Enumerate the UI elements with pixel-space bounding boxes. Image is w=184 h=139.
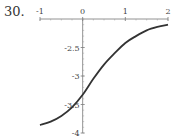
x-tick-label: 0: [80, 7, 85, 16]
y-tick-label: -4: [72, 129, 80, 138]
function-plot: -1012-2.5-3-3.5-4: [0, 0, 184, 139]
y-tick-label: -3: [72, 72, 80, 81]
curve-line: [40, 25, 168, 125]
y-tick-label: -2.5: [64, 44, 79, 53]
x-tick-label: -1: [36, 7, 44, 16]
axes: [40, 17, 168, 133]
x-tick-label: 2: [165, 7, 170, 16]
x-tick-label: 1: [123, 7, 128, 16]
